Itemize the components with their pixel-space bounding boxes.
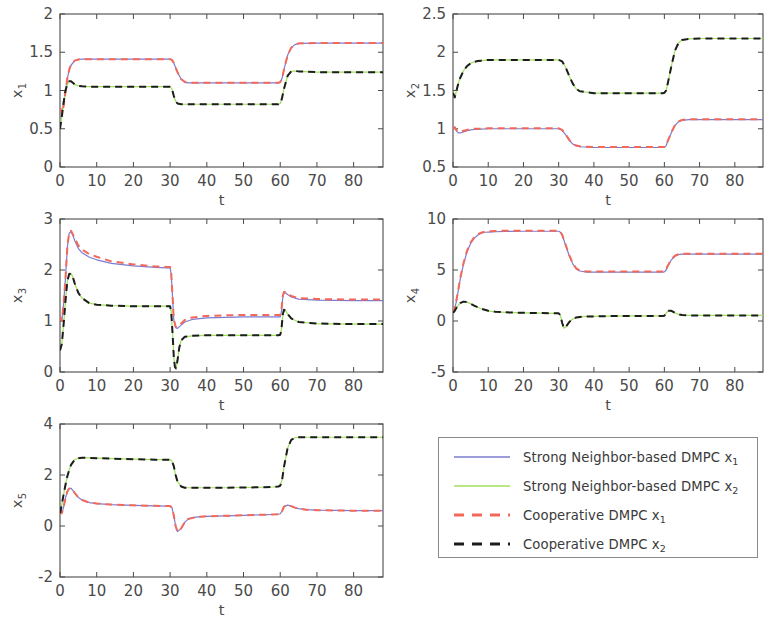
x-tick-label: 0 <box>55 172 65 190</box>
x-tick-label: 30 <box>161 582 180 600</box>
x-tick-label: 10 <box>87 377 106 395</box>
x-axis-title: t <box>605 192 611 205</box>
legend-swatch-0 <box>453 450 511 464</box>
x-tick-label: 40 <box>197 377 216 395</box>
series-line <box>60 71 383 129</box>
x-axis-title: t <box>219 192 225 205</box>
y-tick-label: 1.5 <box>29 43 53 61</box>
legend-row-0: Strong Neighbor-based DMPC x1 <box>439 444 757 470</box>
y-tick-label: 10 <box>427 210 446 228</box>
legend-text-0: Strong Neighbor-based DMPC x <box>523 450 732 465</box>
y-tick-label: 0 <box>43 363 53 381</box>
legend-row-2: Cooperative DMPC x1 <box>439 502 757 528</box>
series-line <box>453 119 763 147</box>
y-axis-title: x4 <box>402 288 421 303</box>
x-tick-label: 0 <box>55 377 65 395</box>
y-tick-label: 2 <box>43 466 53 484</box>
legend: Strong Neighbor-based DMPC x1 Strong Nei… <box>438 437 758 558</box>
x-tick-label: 30 <box>549 172 568 190</box>
x-tick-label: 60 <box>271 582 290 600</box>
x-tick-label: 20 <box>124 582 143 600</box>
x-tick-label: 80 <box>725 172 744 190</box>
x-tick-label: 70 <box>690 377 709 395</box>
series-line <box>60 274 383 369</box>
x-tick-label: 30 <box>161 377 180 395</box>
y-tick-label: -5 <box>431 363 446 381</box>
legend-text-2: Cooperative DMPC x <box>523 508 660 523</box>
x-tick-label: 20 <box>124 377 143 395</box>
subplot-x3-svg: 010203040506070800123tx3 <box>0 205 392 410</box>
y-axis-title: x2 <box>402 83 421 98</box>
y-tick-label: 2.5 <box>422 5 446 23</box>
series-line <box>453 302 763 329</box>
series-line <box>60 43 383 112</box>
subplot-x2-svg: 010203040506070800.511.522.5tx2 <box>392 0 769 205</box>
series-line <box>60 232 383 329</box>
x-tick-label: 20 <box>514 172 533 190</box>
x-tick-label: 80 <box>344 582 363 600</box>
plot-frame <box>60 14 383 167</box>
y-axis-title: x5 <box>9 493 28 508</box>
legend-swatch-1 <box>453 479 511 493</box>
y-tick-label: 0.5 <box>422 158 446 176</box>
y-tick-label: 1 <box>43 312 53 330</box>
series-line <box>60 274 383 369</box>
series-line <box>60 71 383 129</box>
y-tick-label: 0 <box>43 517 53 535</box>
series-line <box>60 43 383 113</box>
y-tick-label: 1 <box>43 82 53 100</box>
y-tick-label: 5 <box>436 261 446 279</box>
y-tick-label: 0 <box>43 158 53 176</box>
x-axis-title: t <box>219 397 225 410</box>
x-tick-label: 10 <box>479 377 498 395</box>
x-tick-label: 20 <box>514 377 533 395</box>
legend-swatch-3 <box>453 537 511 551</box>
x-tick-label: 50 <box>620 377 639 395</box>
x-tick-label: 70 <box>690 172 709 190</box>
svg-text:x5: x5 <box>9 493 28 508</box>
x-tick-label: 50 <box>234 377 253 395</box>
x-tick-label: 80 <box>725 377 744 395</box>
series-line <box>453 38 763 97</box>
y-tick-label: 1 <box>436 120 446 138</box>
x-tick-label: 50 <box>234 172 253 190</box>
x-tick-label: 10 <box>479 172 498 190</box>
series-line <box>453 231 763 313</box>
series-line <box>60 488 383 531</box>
subplot-x4: 01020304050607080-50510tx4 <box>392 205 769 410</box>
svg-text:x4: x4 <box>402 288 421 303</box>
y-axis-title: x1 <box>9 83 28 98</box>
x-tick-label: 40 <box>584 377 603 395</box>
plot-frame <box>60 219 383 372</box>
legend-label-3: Cooperative DMPC x2 <box>523 537 666 552</box>
x-tick-label: 30 <box>549 377 568 395</box>
x-tick-label: 60 <box>271 172 290 190</box>
legend-sub-3: 2 <box>660 543 666 554</box>
legend-label-0: Strong Neighbor-based DMPC x1 <box>523 450 738 465</box>
x-tick-label: 10 <box>87 582 106 600</box>
series-line <box>60 437 383 513</box>
subplot-x1-svg: 0102030405060708000.511.52tx1 <box>0 0 392 205</box>
x-tick-label: 70 <box>307 172 326 190</box>
subplot-x5: 01020304050607080-2024tx5 <box>0 410 392 625</box>
y-tick-label: 3 <box>43 210 53 228</box>
x-tick-label: 30 <box>161 172 180 190</box>
legend-label-1: Strong Neighbor-based DMPC x2 <box>523 479 738 494</box>
legend-sub-0: 1 <box>732 456 738 467</box>
x-tick-label: 20 <box>124 172 143 190</box>
x-tick-label: 50 <box>620 172 639 190</box>
legend-row-3: Cooperative DMPC x2 <box>439 531 757 557</box>
x-tick-label: 40 <box>584 172 603 190</box>
x-tick-label: 40 <box>197 172 216 190</box>
x-tick-label: 60 <box>655 172 674 190</box>
legend-text-3: Cooperative DMPC x <box>523 537 660 552</box>
series-line <box>60 437 383 513</box>
legend-sub-2: 1 <box>660 514 666 525</box>
plot-frame <box>453 14 763 167</box>
subplot-x1: 0102030405060708000.511.52tx1 <box>0 0 392 205</box>
x-axis-title: t <box>605 397 611 410</box>
y-axis-title: x3 <box>9 288 28 303</box>
y-tick-label: -2 <box>38 568 53 586</box>
x-tick-label: 50 <box>234 582 253 600</box>
x-tick-label: 0 <box>448 377 458 395</box>
